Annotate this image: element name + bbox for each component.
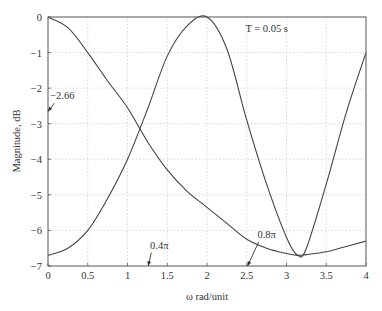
x-tick-label: 0.5 <box>81 270 94 281</box>
y-tick-label: −3 <box>31 119 42 130</box>
annotation-label: 0.8π <box>257 229 276 240</box>
y-tick-label: −6 <box>31 225 42 236</box>
x-tick-label: 2 <box>204 270 209 281</box>
x-axis-label: ω rad/unit <box>186 291 228 302</box>
x-tick-label: 0 <box>45 270 50 281</box>
annotations: T = 0.05 s−2.660.4π0.8π <box>48 23 288 266</box>
y-tick-label: −4 <box>31 154 43 165</box>
y-tick-label: −2 <box>31 83 42 94</box>
x-tick-label: 3.5 <box>320 270 333 281</box>
x-tick-label: 1.5 <box>161 270 174 281</box>
y-tick-label: −5 <box>31 190 42 201</box>
annotation-label: T = 0.05 s <box>245 23 287 34</box>
x-tick-label: 1 <box>125 270 130 281</box>
annotation-label: −2.66 <box>50 90 74 101</box>
x-tick-label: 3 <box>284 270 289 281</box>
y-tick-label: −7 <box>31 261 42 272</box>
grid-lines <box>48 17 366 266</box>
magnitude-chart: 00.511.522.533.54 0−1−2−3−4−5−6−7 ω rad/… <box>0 0 382 311</box>
y-tick-label: −1 <box>31 48 42 59</box>
plot-frame <box>48 17 366 266</box>
arrowhead-icon <box>48 107 52 112</box>
y-axis-label: Magnitude, dB <box>11 110 22 173</box>
x-tick-label: 2.5 <box>240 270 253 281</box>
y-tick-label: 0 <box>37 12 42 23</box>
annotation-label: 0.4π <box>150 240 169 251</box>
x-tick-label: 4 <box>363 270 369 281</box>
